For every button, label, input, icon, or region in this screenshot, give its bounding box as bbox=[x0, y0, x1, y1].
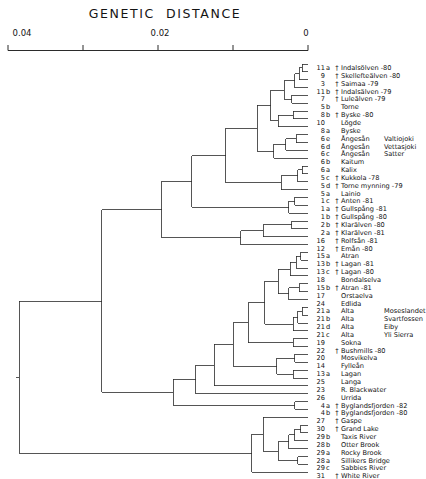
page-title: GENETIC DISTANCE bbox=[0, 6, 330, 21]
leaf-number: 31 bbox=[312, 472, 325, 479]
dendrogram-tree bbox=[0, 58, 330, 479]
axis-tick-label-002: 0.02 bbox=[151, 28, 170, 38]
axis-tick-label-000: 0 bbox=[303, 28, 308, 38]
leaf-name: White River bbox=[341, 472, 379, 479]
distance-axis: 0.04 0.02 0 bbox=[0, 28, 330, 58]
axis-ruler bbox=[0, 41, 330, 55]
extinct-dagger-icon: † bbox=[334, 472, 340, 479]
leaf-label-row: 31†White River bbox=[312, 472, 424, 479]
leaf-label-list: 11a†Indalsölven -809†Skellefteälven -803… bbox=[312, 58, 424, 478]
axis-tick-label-004: 0.04 bbox=[13, 28, 32, 38]
